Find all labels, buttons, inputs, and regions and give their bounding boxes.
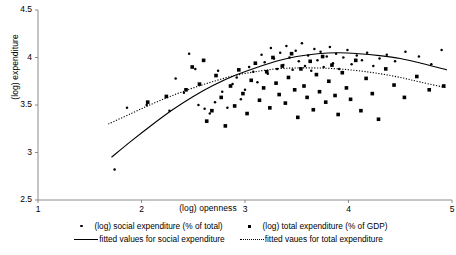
legend-row-fits: fitted values for social expenditure fit… [0,232,456,245]
x-tick-label: 5 [440,204,456,214]
chart-figure: (log) expenditure (log) openness 2.533.5… [0,0,456,255]
chart-legend: (log) social expenditure (% of total) (l… [0,219,456,245]
scatter-plot-canvas [0,0,456,255]
legend-label: (log) total expenditure (% of GDP) [263,221,388,231]
x-tick-label: 4 [337,204,361,214]
x-tick-label: 3 [233,204,257,214]
y-tick-label: 2.5 [6,194,32,204]
legend-item-total-fit: fitted vaues for total expenditure [239,234,383,244]
legend-row-markers: (log) social expenditure (% of total) (l… [0,219,456,232]
axes [35,10,452,203]
legend-item-social-expenditure: (log) social expenditure (% of total) [68,221,222,231]
y-axis-title: (log) expenditure [10,7,20,127]
legend-label: fitted vaues for total expenditure [265,234,383,244]
legend-label: (log) social expenditure (% of total) [94,221,222,231]
y-tick-label: 3 [6,147,32,157]
data-points [113,42,445,171]
x-tick-label: 2 [130,204,154,214]
y-tick-label: 4.5 [6,4,32,14]
solid-line-icon [73,234,99,244]
dot-marker-icon [68,221,94,231]
y-tick-label: 4 [6,52,32,62]
y-tick-label: 3.5 [6,99,32,109]
legend-item-social-fit: fitted values for social expenditure [73,234,224,244]
legend-label: fitted values for social expenditure [99,234,224,244]
legend-item-total-expenditure: (log) total expenditure (% of GDP) [237,221,388,231]
square-marker-icon [237,221,263,231]
x-tick-label: 1 [26,204,50,214]
dotted-line-icon [239,234,265,244]
